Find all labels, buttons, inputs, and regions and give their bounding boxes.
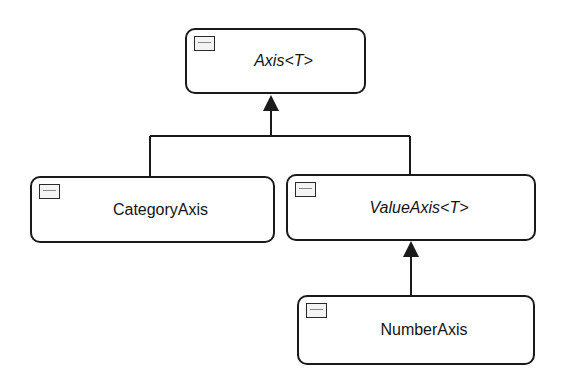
- class-label: Axis<T>: [187, 52, 364, 70]
- class-icon: [295, 182, 316, 197]
- class-label: CategoryAxis: [32, 201, 273, 219]
- class-node-category-axis[interactable]: CategoryAxis: [30, 176, 275, 243]
- class-node-value-axis[interactable]: ValueAxis<T>: [286, 174, 536, 241]
- class-node-axis[interactable]: Axis<T>: [185, 28, 366, 94]
- class-label: ValueAxis<T>: [288, 199, 534, 217]
- class-node-number-axis[interactable]: NumberAxis: [297, 295, 535, 365]
- class-icon: [306, 303, 327, 318]
- class-label: NumberAxis: [299, 321, 533, 339]
- class-icon: [194, 36, 215, 51]
- class-icon: [39, 184, 60, 199]
- arrowhead-up-icon: [403, 241, 419, 257]
- arrowhead-up-icon: [263, 95, 279, 111]
- edge-category-value-to-axis: [150, 108, 410, 177]
